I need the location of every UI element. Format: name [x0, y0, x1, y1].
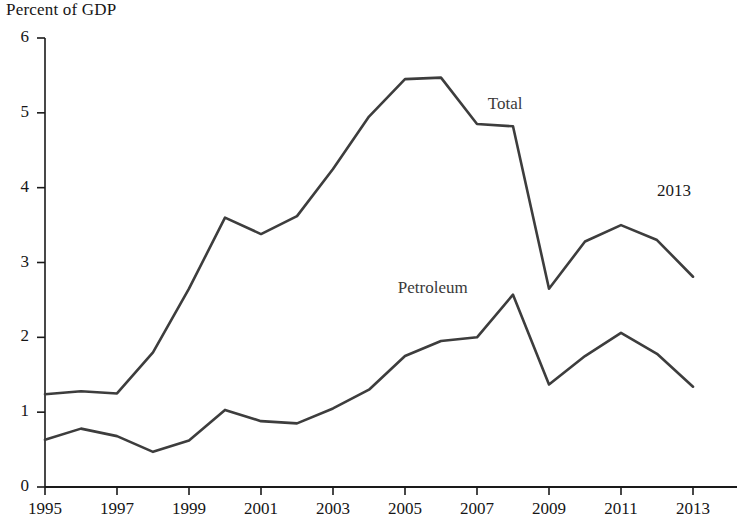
- annotation-2013: 2013: [657, 181, 691, 201]
- x-axis-ticks: [45, 487, 693, 495]
- y-axis-ticks: [37, 38, 45, 487]
- series-label-petroleum: Petroleum: [398, 278, 468, 298]
- chart-container: Percent of GDP 0123456 19951997199920012…: [0, 0, 737, 532]
- series-line-petroleum: [45, 295, 693, 452]
- series-line-total: [45, 78, 693, 395]
- data-series-group: [45, 78, 693, 452]
- plot-area: [0, 0, 737, 532]
- series-label-total: Total: [488, 94, 523, 114]
- axes-group: [37, 38, 737, 495]
